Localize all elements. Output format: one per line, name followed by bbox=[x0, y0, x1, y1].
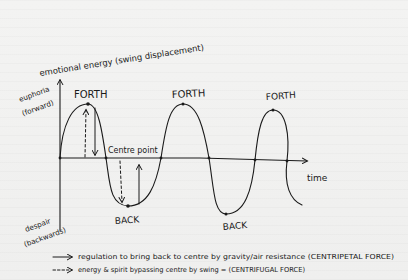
legend-text-centripetal: regulation to bring back to centre by gr… bbox=[78, 253, 394, 261]
swing-curve bbox=[60, 104, 302, 214]
curve-points bbox=[59, 102, 289, 215]
legend-item-centrifugal: energy & spirit bypassing centre by swin… bbox=[53, 266, 305, 274]
peak-label-3: FORTH bbox=[265, 90, 296, 102]
trough-label-1: BACK bbox=[114, 214, 140, 226]
legend-text-centrifugal: energy & spirit bypassing centre by swin… bbox=[78, 266, 305, 274]
time-axis bbox=[60, 158, 307, 161]
legend-item-centripetal: regulation to bring back to centre by gr… bbox=[53, 253, 394, 261]
swing-diagram: emotional energy (swing displacement) eu… bbox=[0, 0, 408, 280]
legend: regulation to bring back to centre by gr… bbox=[53, 253, 394, 274]
centrifugal-arrow-up bbox=[85, 110, 86, 157]
trough-label-2: BACK bbox=[222, 220, 248, 232]
centre-point-label: Centre point bbox=[108, 146, 158, 155]
peak-label-2: FORTH bbox=[172, 87, 206, 100]
peak-label-1: FORTH bbox=[74, 89, 107, 100]
time-axis-label: time bbox=[307, 173, 328, 183]
y-axis-label: emotional energy (swing displacement) bbox=[39, 42, 205, 78]
centrifugal-arrow-down bbox=[120, 161, 122, 202]
